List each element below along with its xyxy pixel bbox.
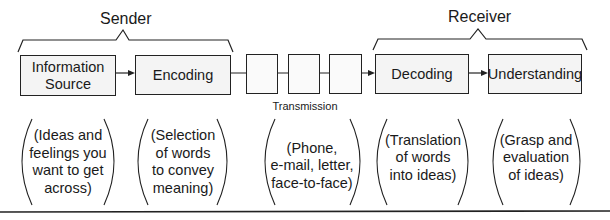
description-line: of words xyxy=(151,145,215,163)
description-line: (Phone, xyxy=(271,140,354,158)
receiver-label: Receiver xyxy=(448,8,510,26)
arrow-head-icon xyxy=(368,70,375,76)
description-line: meaning) xyxy=(151,180,215,198)
description-line: (Translation xyxy=(385,132,461,150)
description-line: feelings you xyxy=(29,145,106,163)
sender-brace xyxy=(18,30,233,52)
box-label: Understanding xyxy=(488,66,582,83)
box-label: Decoding xyxy=(391,66,452,83)
transmission-box-2 xyxy=(288,54,320,94)
understanding-box: Understanding xyxy=(488,54,582,94)
box-label: Encoding xyxy=(153,67,213,84)
transmission-box-1 xyxy=(246,54,278,94)
description-line: (Grasp and xyxy=(500,132,573,150)
description-line: of ideas) xyxy=(500,167,573,185)
information-source-description: (Ideas andfeelings youwant to getacross) xyxy=(22,120,114,204)
description-line: evaluation xyxy=(500,149,573,167)
description-line: want to get xyxy=(29,162,106,180)
box-label-line: Source xyxy=(32,76,105,93)
sender-label: Sender xyxy=(100,10,150,28)
encoding-description: (Selectionof wordsto conveymeaning) xyxy=(138,120,228,204)
decoding-box: Decoding xyxy=(375,54,469,94)
transmission-description: (Phone,e-mail, letter,face-to-face) xyxy=(262,124,362,208)
bottom-rule xyxy=(0,211,610,212)
box-label-line: Information xyxy=(32,59,105,76)
understanding-description: (Grasp andevaluationof ideas) xyxy=(490,116,582,200)
description-line: to convey xyxy=(151,162,215,180)
transmission-box-3 xyxy=(329,54,362,94)
description-line: face-to-face) xyxy=(271,175,354,193)
transmission-label: Transmission xyxy=(268,100,342,112)
description-line: (Selection xyxy=(151,127,215,145)
description-line: e-mail, letter, xyxy=(271,157,354,175)
description-line: into ideas) xyxy=(385,167,461,185)
arrow-head-icon xyxy=(128,70,135,76)
description-line: of words xyxy=(385,149,461,167)
receiver-brace xyxy=(373,29,587,50)
encoding-box: Encoding xyxy=(135,55,231,95)
information-source-box: InformationSource xyxy=(20,55,116,96)
description-line: (Ideas and xyxy=(29,127,106,145)
description-line: across) xyxy=(29,180,106,198)
decoding-description: (Translationof wordsinto ideas) xyxy=(375,116,471,200)
